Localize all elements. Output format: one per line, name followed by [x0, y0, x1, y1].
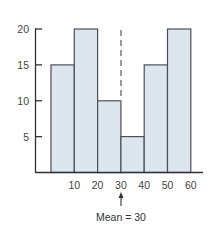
histogram-bar [98, 101, 121, 173]
x-tick-label: 50 [162, 179, 174, 191]
y-tick-label: 15 [17, 59, 29, 71]
y-tick-label: 5 [23, 131, 29, 143]
x-tick-label: 20 [92, 179, 104, 191]
histogram-chart: 5101520 102030405060 Mean = 30 [0, 0, 215, 231]
histogram-bar [168, 29, 191, 173]
y-axis-ticks: 5101520 [17, 23, 42, 143]
histogram-bar [74, 29, 97, 173]
x-axis-ticks: 102030405060 [68, 179, 196, 191]
histogram-bar [144, 65, 167, 173]
y-tick-label: 20 [17, 23, 29, 35]
x-tick-label: 60 [185, 179, 197, 191]
y-tick-label: 10 [17, 95, 29, 107]
x-tick-label: 10 [68, 179, 80, 191]
histogram-bar [51, 65, 74, 173]
mean-arrow [119, 192, 124, 206]
x-tick-label: 40 [138, 179, 150, 191]
mean-label: Mean = 30 [96, 211, 146, 223]
histogram-bar [121, 137, 144, 173]
x-tick-label: 30 [115, 179, 127, 191]
arrow-up-icon [119, 192, 124, 198]
